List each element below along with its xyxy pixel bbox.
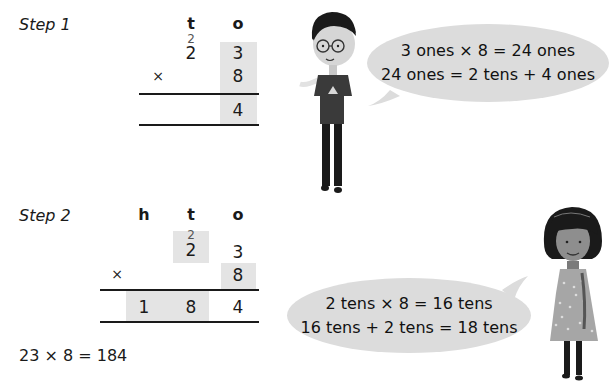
step-1-result-ones: 4 bbox=[226, 100, 250, 120]
bubble-1-line-2: 24 ones = 2 tens + 4 ones bbox=[381, 63, 595, 87]
step-2-label: Step 2 bbox=[19, 206, 71, 225]
step-1-multiply-sign: × bbox=[150, 68, 166, 84]
step-2-result-ones: 4 bbox=[226, 297, 250, 317]
step-2-top-rule bbox=[100, 289, 259, 291]
speech-bubble-step-2: 2 tens × 8 = 16 tens 16 tens + 2 tens = … bbox=[287, 278, 531, 353]
step-2-bottom-rule bbox=[100, 321, 259, 323]
step-2-header-hundreds: h bbox=[132, 205, 156, 224]
step-1-multiplier-ones: 8 bbox=[226, 66, 250, 86]
final-equation: 23 × 8 = 184 bbox=[19, 346, 127, 365]
bubble-1-line-1: 3 ones × 8 = 24 ones bbox=[401, 39, 575, 63]
step-1-label: Step 1 bbox=[19, 15, 71, 34]
step-2-multiplicand-ones: 3 bbox=[226, 242, 250, 262]
step-2-multiplicand-tens: 2 bbox=[179, 240, 203, 260]
speech-bubble-step-1: 3 ones × 8 = 24 ones 24 ones = 2 tens + … bbox=[367, 24, 609, 102]
step-2-multiply-sign: × bbox=[109, 266, 125, 282]
step-1-bottom-rule bbox=[139, 124, 259, 126]
step-2-multiplier-ones: 8 bbox=[226, 265, 250, 285]
step-1-top-rule bbox=[139, 93, 259, 95]
bubble-2-line-2: 16 tens + 2 tens = 18 tens bbox=[300, 316, 517, 340]
step-1-header-tens: t bbox=[179, 14, 203, 33]
bubble-2-line-1: 2 tens × 8 = 16 tens bbox=[325, 292, 492, 316]
girl-character-illustration bbox=[540, 203, 610, 381]
step-2-result-hundreds: 1 bbox=[132, 297, 156, 317]
step-1-header-ones: o bbox=[226, 14, 250, 33]
step-2-result-tens: 8 bbox=[179, 297, 203, 317]
step-2-header-tens: t bbox=[179, 205, 203, 224]
step-2-header-ones: o bbox=[226, 205, 250, 224]
step-1-multiplicand-tens: 2 bbox=[179, 43, 203, 63]
step-1-multiplicand-ones: 3 bbox=[226, 43, 250, 63]
